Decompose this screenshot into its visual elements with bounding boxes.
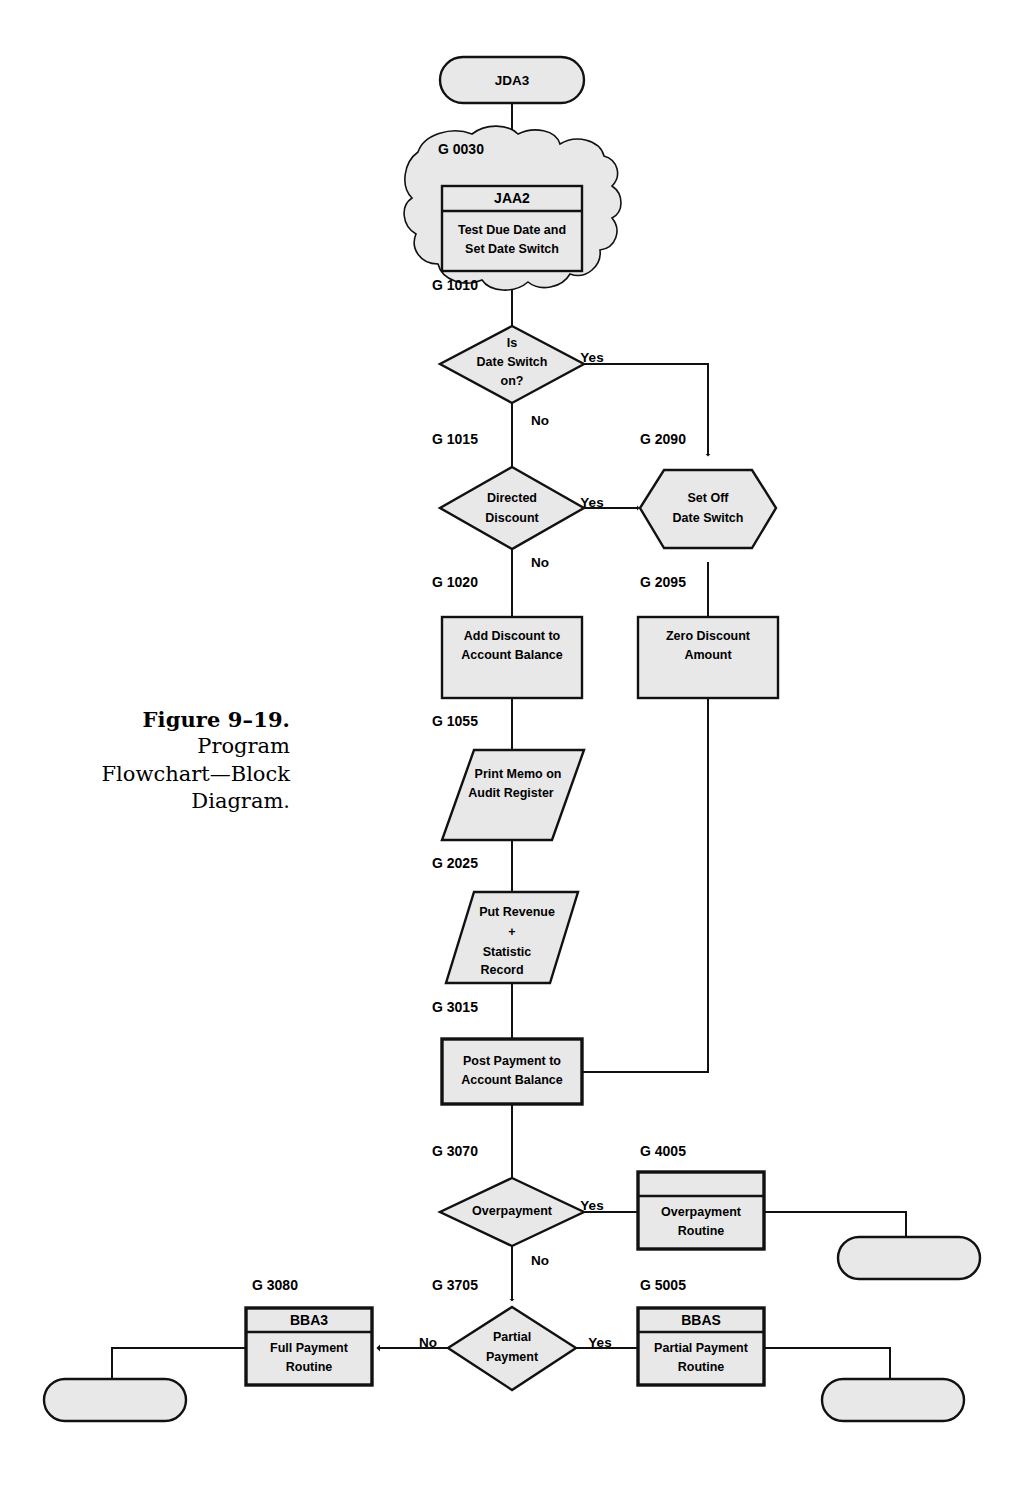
overpayment-routine-line-1: Overpayment xyxy=(661,1205,742,1219)
partial-payment-routine-line-2: Routine xyxy=(678,1360,725,1374)
ref-g1055: G 1055 xyxy=(432,713,478,729)
ref-g1010: G 1010 xyxy=(432,277,478,293)
node-date-switch-decision[interactable]: Is Date Switch on? xyxy=(440,326,584,403)
ref-g2090: G 2090 xyxy=(640,431,686,447)
edge-overpayment-routine-to-terminator xyxy=(764,1212,906,1237)
node-partial-payment-decision[interactable]: Partial Payment xyxy=(448,1307,576,1390)
jaa2-line-2: Set Date Switch xyxy=(465,242,559,256)
partial-payment-line-2: Payment xyxy=(486,1350,539,1364)
overpayment-routine-line-2: Routine xyxy=(678,1224,725,1238)
node-terminator-overpayment-exit[interactable] xyxy=(838,1237,980,1279)
zero-discount-line-2: Amount xyxy=(684,648,732,662)
ref-g3015: G 3015 xyxy=(432,999,478,1015)
node-zero-discount[interactable]: Zero Discount Amount xyxy=(638,617,778,698)
set-off-line-1: Set Off xyxy=(688,491,730,505)
add-discount-line-1: Add Discount to xyxy=(464,629,561,643)
node-overpayment-decision[interactable]: Overpayment xyxy=(440,1178,584,1246)
full-payment-routine-header: BBA3 xyxy=(290,1312,328,1328)
post-payment-line-2: Account Balance xyxy=(461,1073,562,1087)
post-payment-line-1: Post Payment to xyxy=(463,1054,561,1068)
zero-discount-line-1: Zero Discount xyxy=(666,629,751,643)
node-terminator-partial-payment-exit[interactable] xyxy=(822,1379,964,1421)
print-memo-line-1: Print Memo on xyxy=(475,767,562,781)
node-terminator-full-payment-exit[interactable] xyxy=(44,1379,186,1421)
ref-g5005: G 5005 xyxy=(640,1277,686,1293)
date-switch-line-3: on? xyxy=(501,374,524,388)
partial-payment-no-label: No xyxy=(419,1335,437,1350)
ref-g3705: G 3705 xyxy=(432,1277,478,1293)
print-memo-line-2: Audit Register xyxy=(468,786,554,800)
ref-g2025: G 2025 xyxy=(432,855,478,871)
overpayment-yes-label: Yes xyxy=(580,1198,603,1213)
partial-payment-line-1: Partial xyxy=(493,1330,531,1344)
node-full-payment-routine[interactable]: BBA3 Full Payment Routine xyxy=(246,1308,372,1385)
overpayment-label: Overpayment xyxy=(472,1204,553,1218)
full-payment-routine-line-1: Full Payment xyxy=(270,1341,349,1355)
flowchart-canvas: JDA3 G 0030 JAA2 Test Due Date and Set D… xyxy=(0,0,1010,1510)
node-overpayment-routine[interactable]: Overpayment Routine xyxy=(638,1172,764,1249)
partial-payment-routine-header: BBAS xyxy=(681,1312,721,1328)
add-discount-line-2: Account Balance xyxy=(461,648,562,662)
date-switch-yes-label: Yes xyxy=(580,350,603,365)
figure-page: Figure 9–19. Program Flowchart—Block Dia… xyxy=(0,0,1010,1510)
date-switch-no-label: No xyxy=(531,413,549,428)
jaa2-header-label: JAA2 xyxy=(494,190,530,206)
partial-payment-yes-label: Yes xyxy=(588,1335,611,1350)
node-start-terminator[interactable]: JDA3 xyxy=(440,57,584,103)
ref-g1015: G 1015 xyxy=(432,431,478,447)
directed-discount-yes-label: Yes xyxy=(580,495,603,510)
put-revenue-line-4: Record xyxy=(480,963,523,977)
ref-g2095: G 2095 xyxy=(640,574,686,590)
ref-g1020: G 1020 xyxy=(432,574,478,590)
edge-partial-payment-to-terminator xyxy=(764,1348,890,1379)
put-revenue-line-2: + xyxy=(508,925,515,939)
ref-g4005: G 4005 xyxy=(640,1143,686,1159)
edge-date-switch-yes xyxy=(566,364,708,455)
node-partial-payment-routine[interactable]: BBAS Partial Payment Routine xyxy=(638,1308,764,1385)
ref-g3080: G 3080 xyxy=(252,1277,298,1293)
edge-full-payment-to-terminator xyxy=(112,1348,246,1379)
annotation-blob-ref: G 0030 xyxy=(438,141,484,157)
node-print-memo[interactable]: Print Memo on Audit Register xyxy=(442,750,584,840)
node-post-payment[interactable]: Post Payment to Account Balance xyxy=(442,1039,582,1104)
start-terminator-label: JDA3 xyxy=(495,73,530,88)
jaa2-line-1: Test Due Date and xyxy=(458,223,566,237)
date-switch-line-1: Is xyxy=(507,336,517,350)
put-revenue-line-3: Statistic xyxy=(483,945,532,959)
edge-zero-discount-to-post-payment xyxy=(572,698,708,1072)
put-revenue-line-1: Put Revenue xyxy=(479,905,555,919)
ref-g3070: G 3070 xyxy=(432,1143,478,1159)
overpayment-no-label: No xyxy=(531,1253,549,1268)
directed-discount-no-label: No xyxy=(531,555,549,570)
set-off-line-2: Date Switch xyxy=(673,511,744,525)
directed-discount-line-2: Discount xyxy=(485,511,539,525)
full-payment-routine-line-2: Routine xyxy=(286,1360,333,1374)
partial-payment-routine-line-1: Partial Payment xyxy=(654,1341,749,1355)
node-set-off-date-switch[interactable]: Set Off Date Switch xyxy=(640,470,776,548)
directed-discount-line-1: Directed xyxy=(487,491,537,505)
node-add-discount[interactable]: Add Discount to Account Balance xyxy=(442,617,582,698)
node-put-revenue[interactable]: Put Revenue + Statistic Record xyxy=(446,892,578,983)
node-directed-discount-decision[interactable]: Directed Discount xyxy=(440,467,584,549)
node-jaa2-box[interactable]: JAA2 Test Due Date and Set Date Switch xyxy=(442,186,582,271)
date-switch-line-2: Date Switch xyxy=(477,355,548,369)
